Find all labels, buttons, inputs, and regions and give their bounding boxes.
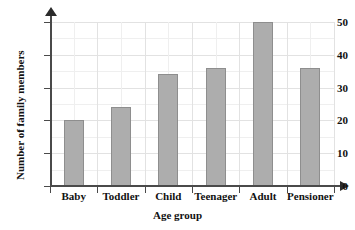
plot-area (50, 22, 334, 186)
y-tick-mark (44, 55, 50, 56)
y-tick-label: 40 (311, 50, 355, 61)
x-axis-line (50, 185, 342, 187)
y-axis-title: Number of family members (14, 50, 26, 180)
bar-teenager (206, 68, 226, 186)
y-tick-label: 50 (311, 17, 355, 28)
x-tick-label-baby: Baby (50, 191, 97, 202)
x-axis-title: Age group (0, 209, 355, 221)
y-axis-line (50, 14, 52, 186)
y-axis-arrow-icon (45, 7, 57, 16)
gridline-vertical (192, 22, 193, 186)
x-tick-label-pensioner: Pensioner (287, 191, 334, 202)
gridline-vertical (287, 22, 288, 186)
x-tick-label-child: Child (145, 191, 192, 202)
y-tick-label: 30 (311, 83, 355, 94)
gridline-vertical (145, 22, 146, 186)
bar-child (158, 74, 178, 186)
y-tick-mark (44, 88, 50, 89)
x-tick-label-toddler: Toddler (97, 191, 144, 202)
bar-baby (64, 120, 84, 186)
x-tick-mark (334, 187, 335, 193)
y-tick-label: 10 (311, 148, 355, 159)
bar-toddler (111, 107, 131, 186)
y-tick-label: 20 (311, 115, 355, 126)
y-tick-mark (44, 153, 50, 154)
bar-adult (253, 22, 273, 186)
page-bleed-artifact (186, 0, 306, 7)
y-tick-mark (44, 22, 50, 23)
bar-chart: 01020304050 BabyToddlerChildTeenagerAdul… (0, 0, 355, 230)
gridline-vertical (97, 22, 98, 186)
y-tick-mark (44, 120, 50, 121)
gridline-vertical (334, 22, 335, 186)
gridline-vertical (239, 22, 240, 186)
x-tick-label-teenager: Teenager (192, 191, 239, 202)
x-tick-label-adult: Adult (239, 191, 286, 202)
